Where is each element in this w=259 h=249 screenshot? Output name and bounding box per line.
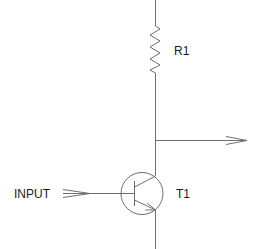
resistor-label: R1 [174,44,190,58]
resistor-r1 [150,26,160,73]
transistor-label: T1 [176,187,190,201]
transistor-emitter [135,200,156,210]
transistor-collector [135,176,156,187]
input-label: INPUT [14,187,51,201]
circuit-schematic: R1 INPUT T1 [0,0,259,249]
